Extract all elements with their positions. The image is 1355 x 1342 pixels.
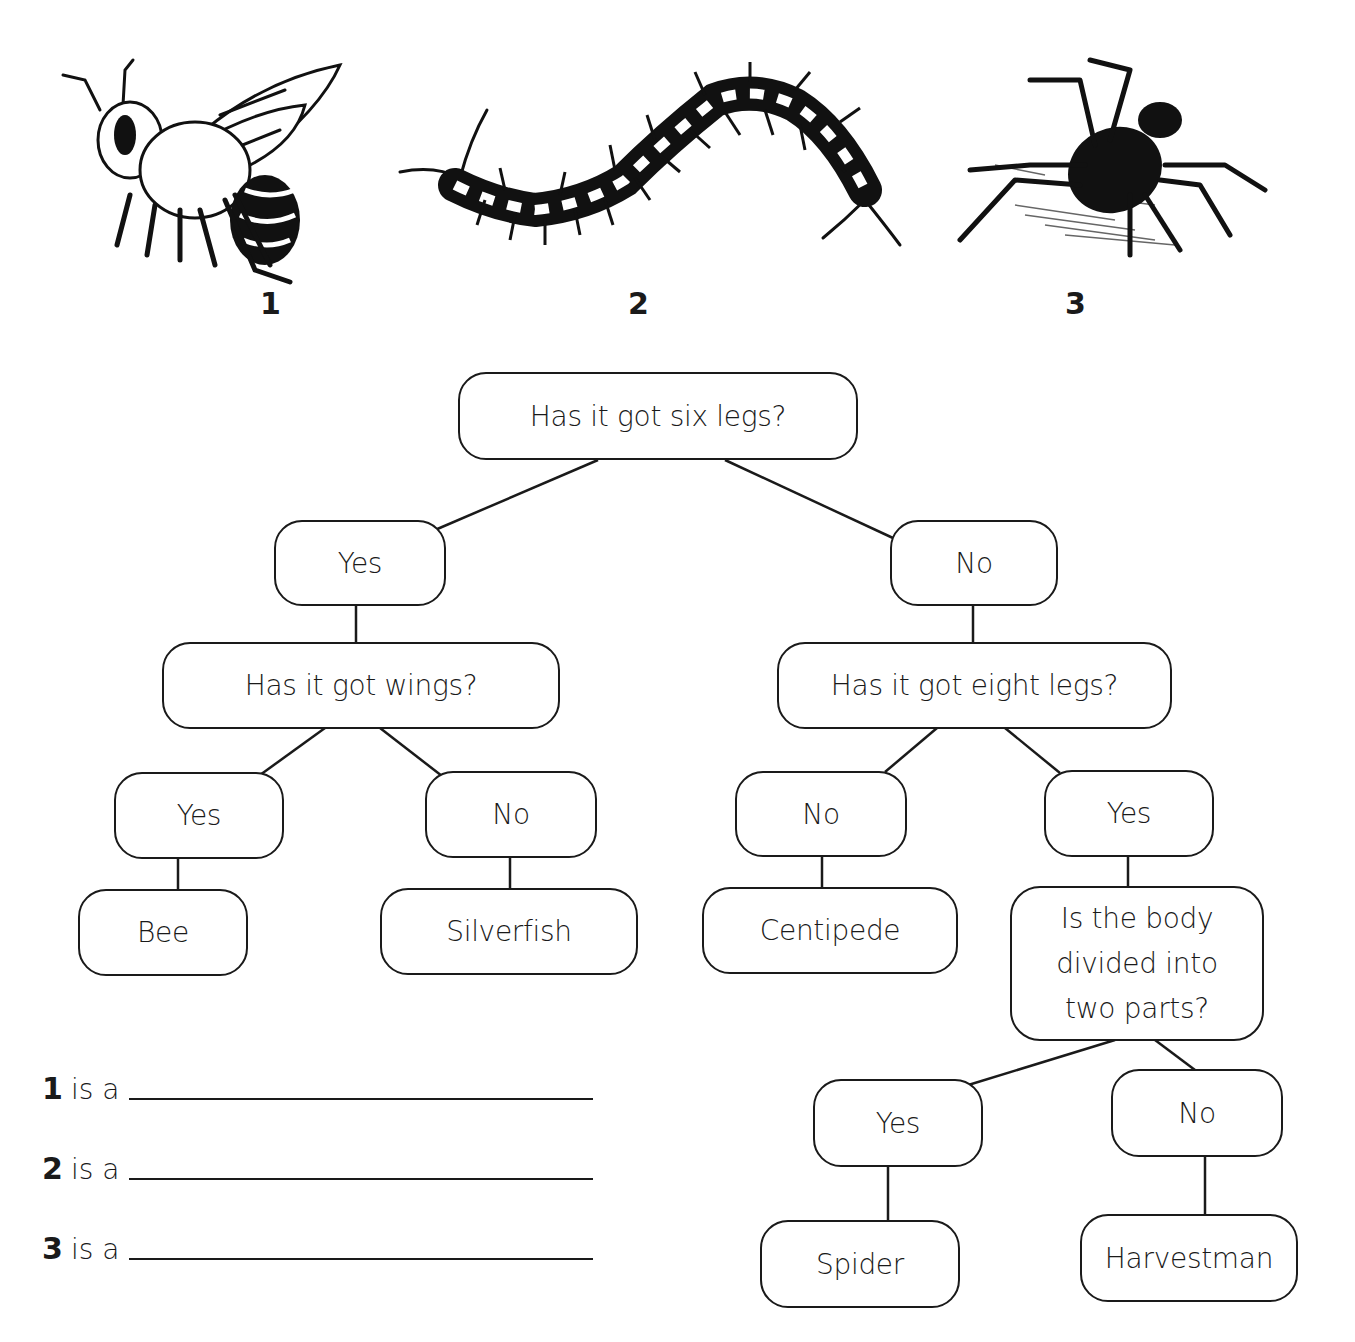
answer-number: 2 <box>42 1151 63 1186</box>
eight-legs-question-node: Has it got eight legs? <box>777 642 1172 729</box>
result-harvestman: Harvestman <box>1080 1214 1298 1302</box>
body-parts-no-node: No <box>1111 1069 1283 1157</box>
body-parts-yes-node: Yes <box>813 1079 983 1167</box>
answer-blank-2[interactable] <box>129 1177 593 1180</box>
answer-prompt: is a <box>71 1233 119 1266</box>
answer-number: 1 <box>42 1071 63 1106</box>
answer-row-1: 1 is a <box>42 1066 593 1106</box>
wings-yes-node: Yes <box>114 772 284 859</box>
answer-number: 3 <box>42 1231 63 1266</box>
six-legs-no-node: No <box>890 520 1058 606</box>
answer-prompt: is a <box>71 1073 119 1106</box>
answer-blank-3[interactable] <box>129 1257 593 1260</box>
answer-row-3: 3 is a <box>42 1226 593 1266</box>
result-centipede: Centipede <box>702 887 958 974</box>
eight-legs-yes-node: Yes <box>1044 770 1214 857</box>
result-spider: Spider <box>760 1220 960 1308</box>
answer-row-2: 2 is a <box>42 1146 593 1186</box>
eight-legs-no-node: No <box>735 771 907 857</box>
wings-no-node: No <box>425 771 597 858</box>
six-legs-yes-node: Yes <box>274 520 446 606</box>
result-bee: Bee <box>78 889 248 976</box>
answer-prompt: is a <box>71 1153 119 1186</box>
wings-question-node: Has it got wings? <box>162 642 560 729</box>
result-silverfish: Silverfish <box>380 888 638 975</box>
body-parts-question-node: Is the body divided into two parts? <box>1010 886 1264 1041</box>
answer-blank-1[interactable] <box>129 1097 593 1100</box>
root-question-node: Has it got six legs? <box>458 372 858 460</box>
